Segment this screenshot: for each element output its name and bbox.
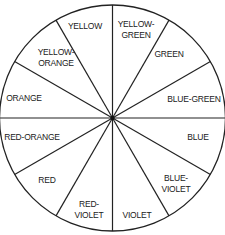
segment-label-line: BLUE xyxy=(187,132,209,142)
segment-label-violet: VIOLET xyxy=(122,210,151,220)
segment-label-red: RED xyxy=(38,175,55,185)
segment-label-line: GREEN xyxy=(154,49,183,59)
segment-label-line: BLUE-GREEN xyxy=(167,94,220,104)
segment-label-blue-green: BLUE-GREEN xyxy=(167,94,220,104)
segment-label-line: ORANGE xyxy=(6,93,42,103)
segment-label-line: VIOLET xyxy=(122,210,151,220)
segment-label-line: RED-ORANGE xyxy=(4,132,60,142)
segment-label-line: GREEN xyxy=(121,30,150,40)
segment-label-line: BLUE- xyxy=(164,173,188,183)
segment-label-line: VIOLET xyxy=(161,184,190,194)
segment-label-yellow-green: YELLOW-GREEN xyxy=(118,19,155,40)
segment-label-line: VIOLET xyxy=(74,210,103,220)
segment-label-blue-violet: BLUE-VIOLET xyxy=(161,173,190,194)
segment-label-line: RED xyxy=(38,175,55,185)
segment-label-line: YELLOW- xyxy=(118,19,155,29)
segment-label-green: GREEN xyxy=(154,49,183,59)
segment-label-line: YELLOW xyxy=(68,21,102,31)
segment-label-red-orange: RED-ORANGE xyxy=(4,132,60,142)
segment-label-yellow-orange: YELLOW-ORANGE xyxy=(38,47,75,68)
segment-label-line: YELLOW- xyxy=(38,47,75,57)
segment-label-orange: ORANGE xyxy=(6,93,42,103)
color-wheel: YELLOW-GREENGREENBLUE-GREENBLUEBLUE-VIOL… xyxy=(0,0,225,235)
segment-label-yellow: YELLOW xyxy=(68,21,102,31)
segment-label-line: ORANGE xyxy=(38,58,74,68)
segment-label-blue: BLUE xyxy=(187,132,209,142)
segment-label-line: RED- xyxy=(79,199,99,209)
center-hub xyxy=(110,116,114,120)
